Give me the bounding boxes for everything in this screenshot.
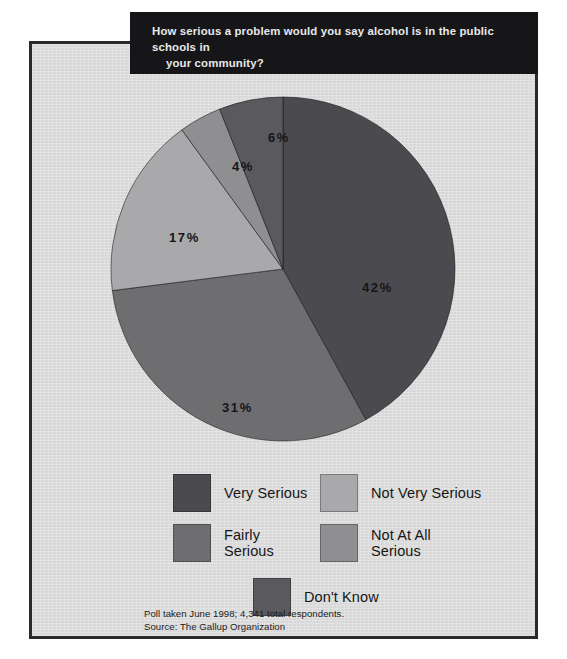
- chart-title-line-1: How serious a problem would you say alco…: [152, 25, 494, 53]
- legend-label-fairly-serious: Fairly Serious: [224, 527, 274, 560]
- pie-slice-value-fairly-serious: 31%: [222, 400, 253, 415]
- pie-chart-svg: [108, 94, 458, 444]
- chart-title: How serious a problem would you say alco…: [152, 23, 520, 71]
- legend-label-dont-know: Don't Know: [304, 589, 379, 606]
- legend-item-not-very-serious[interactable]: Not Very Serious: [320, 474, 481, 512]
- pie-slice-value-not-at-all-serious: 4%: [232, 159, 254, 174]
- legend-item-very-serious[interactable]: Very Serious: [173, 474, 307, 512]
- footnote-poll-info: Poll taken June 1998; 4,341 total respon…: [144, 608, 344, 621]
- pie-slice-value-not-very-serious: 17%: [169, 230, 200, 245]
- pie-slice-value-dont-know: 6%: [268, 130, 290, 145]
- legend-label-not-very-serious: Not Very Serious: [371, 485, 481, 502]
- chart-title-line-2: your community?: [152, 55, 520, 71]
- legend-label-not-at-all-serious: Not At All Serious: [371, 527, 431, 560]
- legend-item-fairly-serious[interactable]: Fairly Serious: [173, 524, 274, 562]
- legend-item-not-at-all-serious[interactable]: Not At All Serious: [320, 524, 431, 562]
- pie-slice-value-very-serious: 42%: [362, 280, 393, 295]
- pie-slices: [111, 97, 455, 441]
- chart-footnote: Poll taken June 1998; 4,341 total respon…: [144, 608, 344, 633]
- pie-chart: 42% 31% 17% 4% 6%: [32, 44, 535, 444]
- legend-swatch-very-serious: [173, 474, 211, 512]
- chart-panel: 42% 31% 17% 4% 6% Very Serious Fairly Se…: [29, 41, 538, 639]
- footnote-source: Source: The Gallup Organization: [144, 621, 344, 634]
- legend-swatch-not-very-serious: [320, 474, 358, 512]
- chart-title-banner: How serious a problem would you say alco…: [130, 12, 538, 74]
- legend-swatch-not-at-all-serious: [320, 524, 358, 562]
- legend-label-very-serious: Very Serious: [224, 485, 307, 502]
- legend-swatch-fairly-serious: [173, 524, 211, 562]
